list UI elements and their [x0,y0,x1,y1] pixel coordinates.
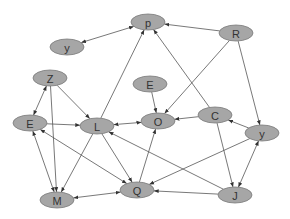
node-label: p [145,17,151,29]
node-O[interactable]: O [141,113,175,129]
edge-E2-L-arrow [47,124,80,125]
node-label: L [94,121,100,133]
edge-J-Q-arrow [154,191,218,194]
edge-R-p-arrow [164,24,219,31]
edge-R-O-arrow [165,40,230,113]
node-J[interactable]: J [218,187,252,203]
edge-y2-C-arrow [228,120,249,128]
edge-E1-O-arrow [152,92,157,113]
node-label: Q [133,185,142,197]
node-Q[interactable]: Q [120,182,154,198]
edge-M-Q-arrow [73,192,120,198]
node-label: y [259,128,265,140]
edge-Z-E2-arrow [34,86,47,115]
node-p[interactable]: p [131,14,165,30]
node-label: y [64,42,70,54]
edge-C-J-arrow [217,123,233,187]
edge-R-y2-arrow [238,41,260,125]
node-label: R [232,28,240,40]
edge-C-O-arrow [175,117,199,120]
node-L[interactable]: L [80,118,114,134]
edge-Q-O-arrow [139,129,155,182]
edge-J-L-arrow [109,132,224,189]
edge-L-M-arrow [61,134,93,192]
edge-p-y1-arrow [81,26,134,42]
edge-Q-E2-arrow [40,129,127,183]
node-label: M [52,195,61,207]
edge-L-p-arrow [101,30,144,118]
graph-canvas: pyRZEELOCyMQJ [0,0,290,219]
edge-Z-L-arrow [57,85,90,118]
node-Z[interactable]: Z [33,70,67,86]
node-y1[interactable]: y [50,39,84,55]
node-E1[interactable]: E [133,76,167,92]
node-R[interactable]: R [219,25,253,41]
node-label: E [26,118,33,130]
node-M[interactable]: M [40,192,74,208]
edge-y2-J-arrow [238,141,258,187]
node-layer: pyRZEELOCyMQJ [13,14,279,208]
node-label: Z [47,73,54,85]
edge-C-p-arrow [154,30,210,108]
node-C[interactable]: C [198,107,232,123]
edge-L-O-arrow [114,122,142,124]
node-label: O [154,116,163,128]
edge-E2-M-arrow [33,131,54,192]
node-E2[interactable]: E [13,115,47,131]
node-label: E [146,79,153,91]
node-y2[interactable]: y [245,125,279,141]
node-label: C [211,110,219,122]
node-label: J [232,190,238,202]
